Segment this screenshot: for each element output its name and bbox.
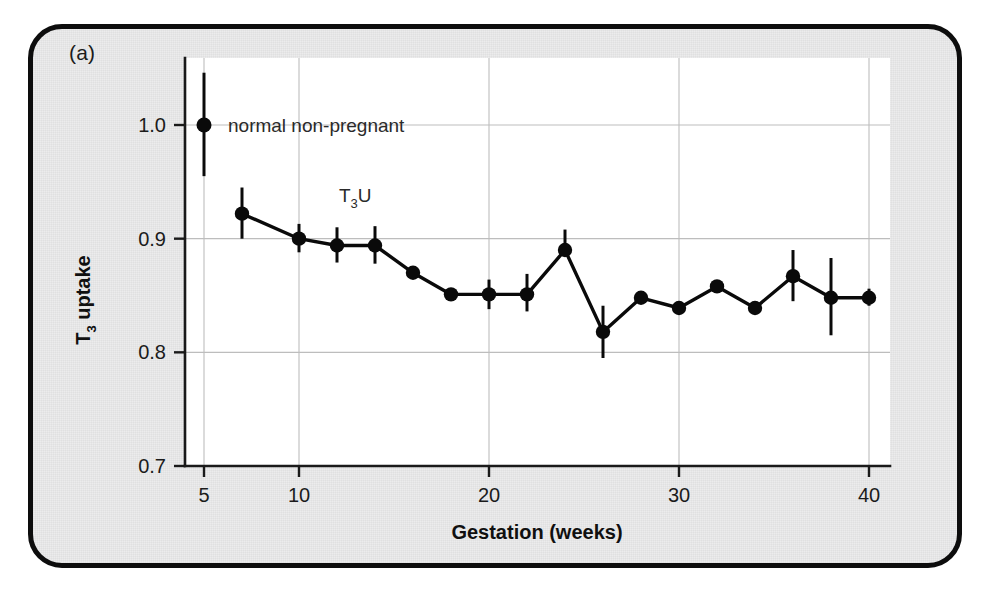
figure-root: (a) 510203040 0.70.80.91.0 normal non-pr… xyxy=(0,0,994,597)
panel-label: (a) xyxy=(69,41,95,65)
figure-panel: (a) xyxy=(28,24,962,568)
